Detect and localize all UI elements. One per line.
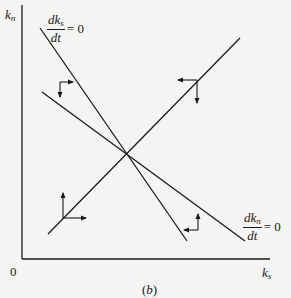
saddle-path-line bbox=[48, 38, 240, 234]
ks-locus-label: dks dt = 0 bbox=[47, 13, 84, 44]
ks-locus-line bbox=[40, 28, 187, 241]
ks-num-sub: s bbox=[60, 18, 64, 28]
kn-num-sub: n bbox=[256, 216, 261, 226]
ks-fraction: dks dt bbox=[47, 13, 65, 44]
ks-denominator: dt bbox=[51, 30, 61, 44]
ks-equals: = 0 bbox=[67, 21, 84, 37]
kn-locus-line bbox=[42, 92, 245, 241]
arrow-group-upper-left bbox=[60, 82, 73, 97]
kn-locus-label: dkn dt = 0 bbox=[243, 211, 281, 242]
y-axis-label: kn bbox=[5, 8, 15, 23]
kn-equals: = 0 bbox=[264, 219, 281, 235]
ks-numerator: dks bbox=[47, 13, 65, 30]
ks-num-main: dk bbox=[48, 12, 60, 27]
kn-denominator: dt bbox=[247, 228, 257, 242]
figure-caption: (b) bbox=[142, 282, 157, 298]
x-axis-label: ks bbox=[262, 266, 271, 281]
kn-num-main: dk bbox=[244, 210, 256, 225]
caption-close: ) bbox=[153, 282, 157, 297]
kn-numerator: dkn bbox=[243, 211, 262, 228]
kn-fraction: dkn dt bbox=[243, 211, 262, 242]
arrow-group-lower-right bbox=[184, 214, 198, 230]
phase-diagram bbox=[0, 0, 291, 298]
origin-label: 0 bbox=[10, 264, 17, 280]
y-axis-label-sub: n bbox=[11, 13, 16, 23]
x-axis-label-sub: s bbox=[268, 271, 272, 281]
